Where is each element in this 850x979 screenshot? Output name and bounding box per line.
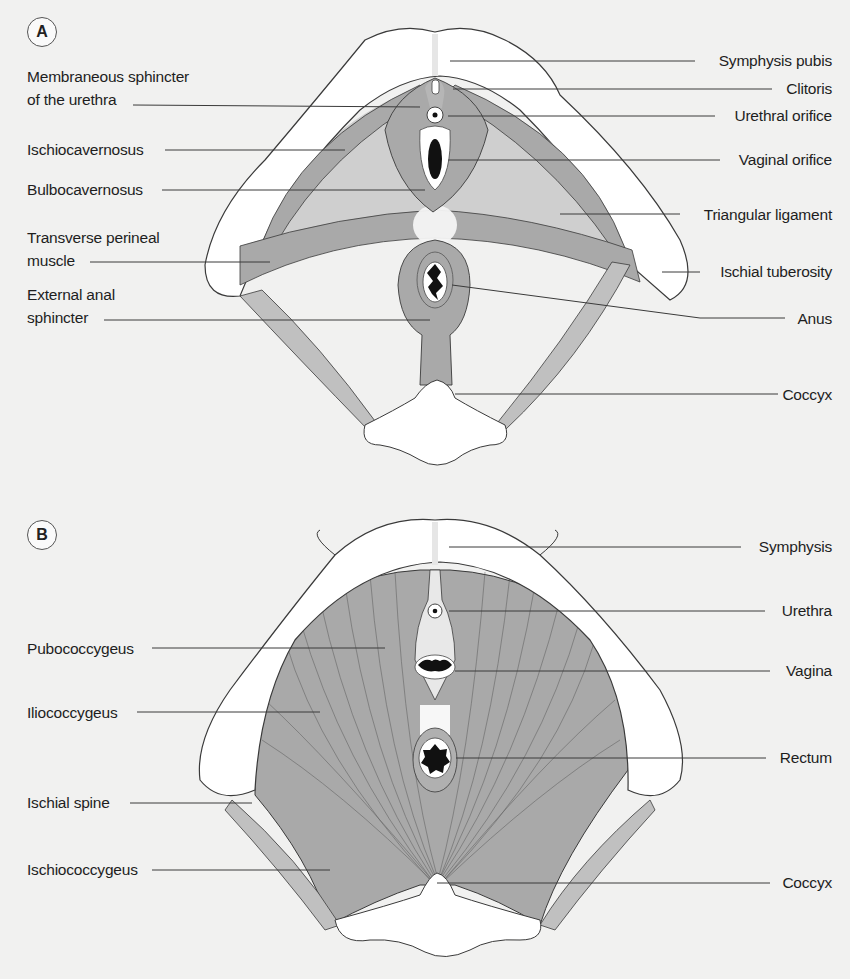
panel-a-badge: A xyxy=(27,17,57,47)
label-ischial-spine: Ischial spine xyxy=(27,794,110,812)
label-symphysis-pubis: Symphysis pubis xyxy=(719,52,832,70)
label-membraneous-sphincter: Membraneous sphincter of the urethra xyxy=(27,68,189,109)
label-vagina: Vagina xyxy=(786,662,832,680)
label-bulbocavernosus: Bulbocavernosus xyxy=(27,181,143,199)
label-pubococcygeus: Pubococcygeus xyxy=(27,640,134,658)
label-vaginal-orifice: Vaginal orifice xyxy=(739,151,832,169)
label-coccyx-b: Coccyx xyxy=(782,874,832,892)
label-anus: Anus xyxy=(797,310,832,328)
panel-a-figure xyxy=(205,28,688,465)
label-triangular-ligament: Triangular ligament xyxy=(704,206,832,224)
panel-b-badge: B xyxy=(27,520,57,550)
label-clitoris: Clitoris xyxy=(786,80,832,98)
label-transverse-perineal: Transverse perineal muscle xyxy=(27,229,160,270)
label-symphysis: Symphysis xyxy=(759,538,832,556)
label-urethral-orifice: Urethral orifice xyxy=(734,107,832,125)
coccyx-a xyxy=(364,380,507,465)
label-coccyx-a: Coccyx xyxy=(782,386,832,404)
label-external-anal-sphincter: External anal sphincter xyxy=(27,286,115,327)
label-urethra: Urethra xyxy=(782,602,832,620)
label-ischiococcygeus: Ischiococcygeus xyxy=(27,861,138,879)
panel-b-figure xyxy=(199,519,682,956)
label-ischiocavernosus: Ischiocavernosus xyxy=(27,141,144,159)
label-ischial-tuberosity: Ischial tuberosity xyxy=(720,263,832,281)
label-iliococcygeus: Iliococcygeus xyxy=(27,704,117,722)
label-rectum: Rectum xyxy=(780,749,832,767)
